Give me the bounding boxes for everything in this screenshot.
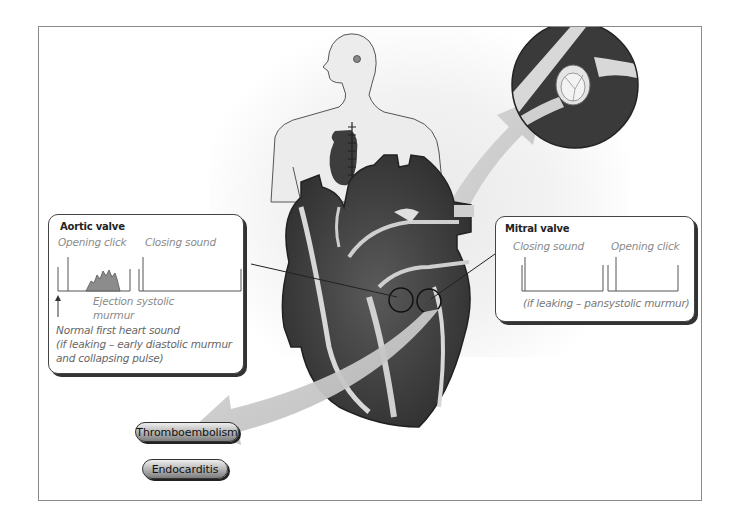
aortic-opening-click-label: Opening click: [58, 236, 126, 248]
aortic-closing-sound-label: Closing sound: [145, 236, 216, 248]
aortic-valve-title: Aortic valve: [60, 221, 125, 232]
ejection-murmur-label-1: Ejection systolic: [93, 295, 174, 307]
mitral-valve-title: Mitral valve: [505, 223, 569, 234]
normal-first-sound-line-1: Normal first heart sound: [56, 323, 180, 337]
mitral-valve-panel: Mitral valve Closing sound Opening click…: [495, 216, 695, 322]
mitral-phonocardiogram-icon: [496, 257, 696, 297]
mitral-leak-note: (if leaking – pansystolic murmur): [523, 297, 689, 309]
mitral-closing-sound-label: Closing sound: [513, 240, 584, 252]
complication-endocarditis: Endocarditis: [142, 459, 228, 479]
ejection-murmur-label-2: murmur: [93, 309, 134, 321]
aortic-valve-panel: Aortic valve Opening click Closing sound…: [48, 214, 244, 374]
normal-first-sound-line-2: (if leaking – early diastolic murmur: [56, 337, 232, 351]
aortic-phonocardiogram-icon: [49, 249, 245, 319]
mitral-opening-click-label: Opening click: [611, 240, 679, 252]
complication-thromboembolism: Thromboembolism: [135, 422, 239, 442]
figure-frame: Aortic valve Opening click Closing sound…: [38, 26, 702, 501]
normal-first-sound-line-3: and collapsing pulse): [56, 351, 163, 365]
